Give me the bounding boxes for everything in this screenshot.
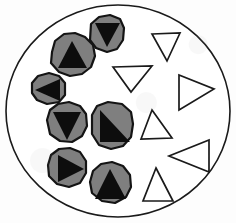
blob-mid-left [47, 102, 87, 142]
blob-upper-left [51, 33, 95, 76]
blob-bottom [90, 162, 131, 203]
blob-center [92, 102, 133, 149]
figure-root [0, 0, 236, 223]
blob-lower-left [48, 148, 86, 187]
diagram-canvas [0, 0, 236, 223]
blob-top [90, 15, 124, 52]
blob-left [32, 73, 65, 104]
